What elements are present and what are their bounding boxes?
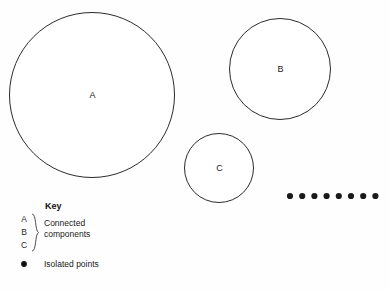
isolated-point-dot[interactable] xyxy=(336,193,342,199)
component-label-a: A xyxy=(89,90,95,100)
key-letter-c: C xyxy=(21,240,27,250)
curly-brace-icon xyxy=(33,214,39,251)
key-title: Key xyxy=(45,201,62,211)
key-label-connected-line1: Connected xyxy=(44,218,85,228)
components-diagram: A B C Key A B C xyxy=(0,0,389,290)
key-label-connected-line2: components xyxy=(44,229,90,239)
diagram-canvas: A B C Key A B C xyxy=(0,0,389,290)
component-label-b: B xyxy=(277,64,283,74)
key-entry-isolated-points[interactable]: Isolated points xyxy=(21,259,99,269)
isolated-point-dot[interactable] xyxy=(299,193,305,199)
isolated-point-swatch-icon xyxy=(21,261,27,267)
key-letter-a: A xyxy=(21,214,27,224)
isolated-point-dot[interactable] xyxy=(348,193,354,199)
isolated-points-row xyxy=(287,193,379,199)
isolated-point-dot[interactable] xyxy=(360,193,366,199)
key-legend: Key A B C Connected components Isolated … xyxy=(21,201,99,269)
key-label-isolated-points: Isolated points xyxy=(44,259,99,269)
isolated-point-dot[interactable] xyxy=(372,193,378,199)
isolated-point-dot[interactable] xyxy=(287,193,293,199)
key-entry-connected-components[interactable]: A B C Connected components xyxy=(21,214,90,251)
component-label-c: C xyxy=(216,163,223,173)
isolated-point-dot[interactable] xyxy=(311,193,317,199)
component-group-b[interactable]: B xyxy=(230,19,331,120)
isolated-point-dot[interactable] xyxy=(324,193,330,199)
key-letter-b: B xyxy=(21,227,27,237)
component-group-c[interactable]: C xyxy=(185,134,254,203)
component-group-a[interactable]: A xyxy=(10,13,175,178)
